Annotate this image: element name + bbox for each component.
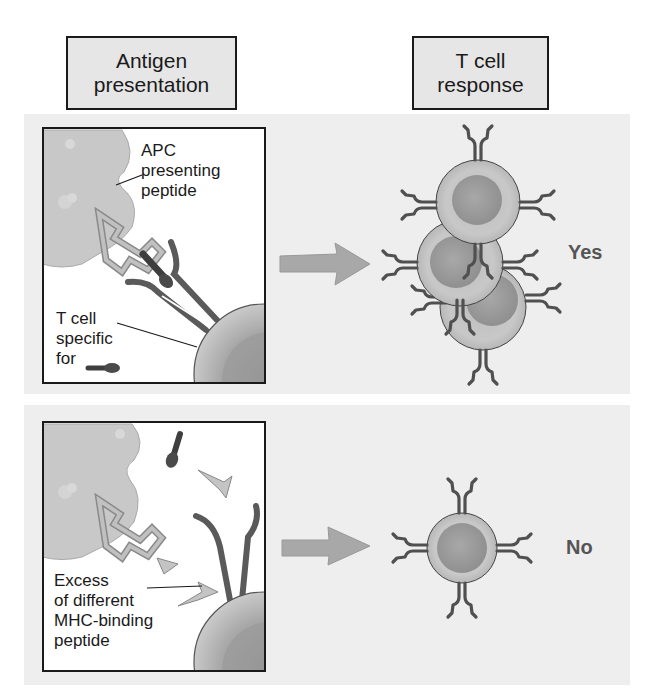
- t-cell-response-illustration: [0, 0, 655, 690]
- resting-t-cell-icon: [393, 479, 531, 617]
- proliferating-t-cells-icon: [383, 126, 560, 384]
- arrow-right-icon: [280, 243, 370, 285]
- result-yes-label: Yes: [568, 241, 602, 264]
- result-no-label: No: [566, 536, 593, 559]
- arrow-right-icon: [282, 527, 370, 565]
